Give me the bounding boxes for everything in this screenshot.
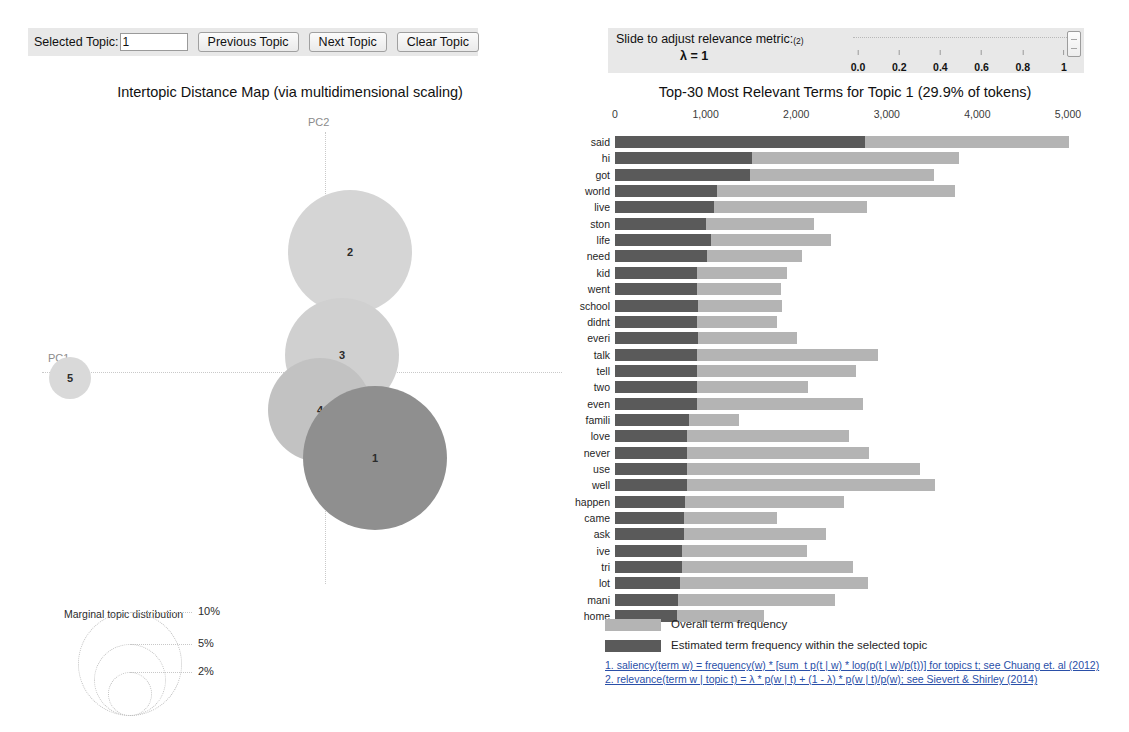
bar-topic-frequency bbox=[615, 496, 685, 508]
bar-topic-frequency bbox=[615, 136, 865, 148]
footnote-saliency[interactable]: 1. saliency(term w) = frequency(w) * [su… bbox=[605, 658, 1099, 672]
bar-topic-frequency bbox=[615, 152, 752, 164]
bar-row[interactable] bbox=[615, 512, 777, 524]
bar-row[interactable] bbox=[615, 152, 959, 164]
term-label[interactable]: tell bbox=[490, 365, 610, 377]
bar-topic-frequency bbox=[615, 414, 689, 426]
bar-topic-frequency bbox=[615, 512, 684, 524]
bar-row[interactable] bbox=[615, 463, 920, 475]
bar-row[interactable] bbox=[615, 234, 831, 246]
bar-topic-frequency bbox=[615, 398, 697, 410]
bar-topic-frequency bbox=[615, 381, 697, 393]
bar-row[interactable] bbox=[615, 136, 1069, 148]
bar-row[interactable] bbox=[615, 561, 853, 573]
term-label[interactable]: got bbox=[490, 169, 610, 181]
bar-row[interactable] bbox=[615, 545, 807, 557]
term-label[interactable]: mani bbox=[490, 594, 610, 606]
term-label[interactable]: went bbox=[490, 283, 610, 295]
legend-swatch bbox=[605, 640, 661, 652]
term-label[interactable]: everi bbox=[490, 332, 610, 344]
term-label[interactable]: hi bbox=[490, 152, 610, 164]
bar-topic-frequency bbox=[615, 561, 682, 573]
term-label[interactable]: didnt bbox=[490, 316, 610, 328]
bar-row[interactable] bbox=[615, 414, 739, 426]
bar-row[interactable] bbox=[615, 185, 955, 197]
bar-topic-frequency bbox=[615, 185, 717, 197]
term-label[interactable]: kid bbox=[490, 267, 610, 279]
bar-row[interactable] bbox=[615, 528, 826, 540]
bar-row[interactable] bbox=[615, 218, 814, 230]
term-label[interactable]: home bbox=[490, 610, 610, 622]
bar-topic-frequency bbox=[615, 479, 687, 491]
bar-row[interactable] bbox=[615, 398, 863, 410]
term-label[interactable]: two bbox=[490, 381, 610, 393]
bar-topic-frequency bbox=[615, 545, 682, 557]
term-label[interactable]: life bbox=[490, 234, 610, 246]
term-label[interactable]: school bbox=[490, 300, 610, 312]
bar-topic-frequency bbox=[615, 332, 698, 344]
bar-row[interactable] bbox=[615, 349, 878, 361]
bar-row[interactable] bbox=[615, 430, 849, 442]
footnotes: 1. saliency(term w) = frequency(w) * [su… bbox=[605, 658, 1099, 686]
bar-row[interactable] bbox=[615, 332, 797, 344]
bar-topic-frequency bbox=[615, 430, 687, 442]
term-label[interactable]: ive bbox=[490, 545, 610, 557]
term-label[interactable]: came bbox=[490, 512, 610, 524]
bar-topic-frequency bbox=[615, 349, 697, 361]
term-label[interactable]: love bbox=[490, 430, 610, 442]
bar-row[interactable] bbox=[615, 479, 935, 491]
term-label[interactable]: use bbox=[490, 463, 610, 475]
bar-row[interactable] bbox=[615, 300, 782, 312]
bar-row[interactable] bbox=[615, 316, 777, 328]
term-label[interactable]: live bbox=[490, 201, 610, 213]
term-label[interactable]: lot bbox=[490, 577, 610, 589]
bar-row[interactable] bbox=[615, 577, 868, 589]
bar-row[interactable] bbox=[615, 496, 844, 508]
bar-row[interactable] bbox=[615, 381, 808, 393]
bar-topic-frequency bbox=[615, 250, 707, 262]
legend-label: Overall term frequency bbox=[671, 618, 787, 630]
term-label[interactable]: happen bbox=[490, 496, 610, 508]
term-label[interactable]: never bbox=[490, 447, 610, 459]
legend-swatch bbox=[605, 619, 661, 631]
term-label[interactable]: tri bbox=[490, 561, 610, 573]
bar-row[interactable] bbox=[615, 594, 835, 606]
term-label[interactable]: well bbox=[490, 479, 610, 491]
term-label[interactable]: famili bbox=[490, 414, 610, 426]
term-label[interactable]: need bbox=[490, 250, 610, 262]
bar-topic-frequency bbox=[615, 463, 687, 475]
bar-topic-frequency bbox=[615, 234, 711, 246]
term-label[interactable]: talk bbox=[490, 349, 610, 361]
bar-row[interactable] bbox=[615, 365, 856, 377]
bar-row[interactable] bbox=[615, 283, 781, 295]
term-label[interactable]: even bbox=[490, 398, 610, 410]
bar-topic-frequency bbox=[615, 218, 706, 230]
bar-chart-plot-area: saidhigotworldlivestonlifeneedkidwentsch… bbox=[0, 0, 1129, 732]
term-label[interactable]: said bbox=[490, 136, 610, 148]
bar-topic-frequency bbox=[615, 283, 697, 295]
bar-row[interactable] bbox=[615, 201, 867, 213]
bar-topic-frequency bbox=[615, 594, 678, 606]
legend-label: Estimated term frequency within the sele… bbox=[671, 639, 927, 651]
bar-topic-frequency bbox=[615, 447, 687, 459]
bar-row[interactable] bbox=[615, 447, 869, 459]
term-label[interactable]: ston bbox=[490, 218, 610, 230]
bar-row[interactable] bbox=[615, 250, 802, 262]
bar-row[interactable] bbox=[615, 267, 787, 279]
bar-topic-frequency bbox=[615, 528, 684, 540]
bar-topic-frequency bbox=[615, 365, 697, 377]
bar-topic-frequency bbox=[615, 201, 714, 213]
term-label[interactable]: world bbox=[490, 185, 610, 197]
bar-topic-frequency bbox=[615, 169, 750, 181]
bar-topic-frequency bbox=[615, 300, 698, 312]
bar-topic-frequency bbox=[615, 316, 697, 328]
bar-topic-frequency bbox=[615, 267, 697, 279]
bar-row[interactable] bbox=[615, 169, 934, 181]
footnote-relevance[interactable]: 2. relevance(term w | topic t) = λ * p(w… bbox=[605, 672, 1099, 686]
term-label[interactable]: ask bbox=[490, 528, 610, 540]
bar-topic-frequency bbox=[615, 577, 680, 589]
